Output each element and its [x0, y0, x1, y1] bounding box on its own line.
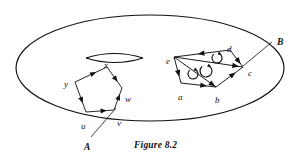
vertex-label-c: c — [248, 69, 252, 78]
region-b-orientation-marks — [188, 52, 222, 79]
lens-shape — [86, 54, 143, 63]
vertex-label-u: u — [81, 122, 86, 131]
vertex-label-b: b — [215, 96, 220, 105]
region-label-A: A — [84, 143, 90, 153]
region-a-edges — [75, 67, 122, 112]
vertex-label-x: x — [104, 61, 108, 70]
region-b-leader-line — [243, 42, 272, 66]
outer-surface-ellipse — [16, 15, 284, 121]
figure-caption: Figure 8.2 — [134, 140, 177, 150]
vertex-label-e: e — [166, 57, 170, 66]
vertex-label-y: y — [64, 80, 68, 89]
vertex-label-v: v — [117, 119, 121, 128]
diagram-svg — [0, 0, 300, 161]
region-b-arrowheads — [175, 51, 241, 88]
figure-canvas: x y u v w e d c b a A B Figure 8.2 — [0, 0, 300, 161]
vertex-label-a: a — [178, 93, 183, 102]
vertex-label-d: d — [227, 45, 232, 54]
region-b-edges — [174, 50, 243, 87]
region-label-B: B — [277, 38, 283, 48]
region-a-leader-line — [91, 108, 116, 137]
vertex-label-w: w — [125, 95, 131, 104]
